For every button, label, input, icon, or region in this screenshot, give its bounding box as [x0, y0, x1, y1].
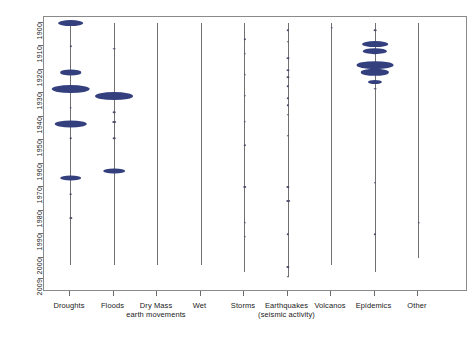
point-marker — [287, 41, 289, 43]
point-marker — [287, 234, 289, 236]
point-marker — [286, 201, 290, 203]
series-strip-line — [244, 23, 245, 272]
y-axis-tick-label: 1960 — [36, 164, 44, 180]
x-axis-tick-label: Dry Mass — [140, 301, 172, 310]
x-axis-tick-label: Volcanos — [314, 301, 345, 310]
x-axis-tick — [200, 291, 201, 296]
x-axis-tick-label: Other — [407, 301, 426, 310]
point-marker — [113, 48, 116, 50]
point-marker — [374, 234, 376, 236]
point-marker — [112, 121, 116, 123]
point-marker — [243, 144, 245, 146]
point-marker — [374, 182, 376, 184]
violin-marker — [361, 69, 389, 75]
point-marker — [69, 46, 71, 48]
point-marker — [287, 97, 289, 99]
point-marker — [287, 86, 289, 88]
plot-area — [43, 16, 467, 291]
point-marker — [69, 217, 72, 219]
x-axis-tick-label: Floods — [101, 301, 124, 310]
point-marker — [374, 88, 377, 90]
x-axis-tick — [69, 291, 70, 296]
x-axis-tick — [113, 291, 114, 296]
violin-marker — [60, 70, 82, 75]
point-marker — [243, 39, 245, 41]
point-marker — [113, 111, 116, 113]
point-marker — [287, 135, 289, 137]
series-strip-line — [70, 23, 71, 265]
point-marker — [330, 27, 332, 29]
y-axis-tick-label: 1910 — [36, 46, 44, 62]
x-axis-tick — [287, 291, 288, 296]
chart-figure: 1900191019201930194019501960197019801990… — [0, 0, 473, 344]
y-axis-tick-label: 1920 — [36, 70, 44, 86]
x-axis-tick — [330, 291, 331, 296]
point-marker — [69, 107, 72, 109]
point-marker — [243, 186, 247, 188]
y-axis-tick-label: 1930 — [36, 93, 44, 109]
point-marker — [417, 222, 419, 224]
x-axis-tick — [156, 291, 157, 296]
point-marker — [113, 137, 116, 139]
violin-marker — [51, 85, 90, 93]
series-strip-line — [201, 23, 202, 265]
point-marker — [243, 121, 245, 123]
violin-marker — [60, 175, 82, 180]
violin-marker — [95, 92, 133, 100]
violin-marker — [103, 168, 125, 173]
y-axis-tick-label: 1940 — [36, 117, 44, 133]
point-marker — [374, 29, 377, 31]
point-marker — [287, 69, 290, 71]
point-marker — [69, 194, 72, 196]
x-axis-tick — [417, 291, 418, 296]
y-axis-tick-label: 2000 — [36, 258, 44, 274]
point-marker — [243, 222, 245, 224]
y-axis-tick-label: 1970 — [36, 187, 44, 203]
series-strip-line — [114, 23, 115, 265]
y-axis-tick-label: 1900 — [36, 23, 44, 39]
point-marker — [287, 104, 289, 106]
y-axis-tick-label: 1950 — [36, 140, 44, 156]
x-axis-tick-label: Storms — [231, 301, 255, 310]
series-strip-line — [331, 23, 332, 265]
x-axis-tick — [374, 291, 375, 296]
point-marker — [287, 29, 289, 31]
point-marker — [69, 137, 72, 139]
point-marker — [243, 53, 245, 55]
point-marker — [286, 186, 289, 188]
series-strip-line — [288, 23, 289, 277]
x-axis-tick-label: Droughts — [53, 301, 84, 310]
violin-marker — [368, 80, 382, 84]
point-marker — [286, 266, 289, 268]
y-axis: 1900191019201930194019501960197019801990… — [0, 16, 43, 291]
series-strip-line — [157, 23, 158, 265]
x-axis-tick-label: Earthquakes — [265, 301, 308, 310]
point-marker — [287, 114, 289, 116]
x-axis: DroughtsFloodsDry Massearth movementsWet… — [43, 291, 467, 341]
x-axis-tick — [243, 291, 244, 296]
y-axis-tick-label: 1990 — [36, 234, 44, 250]
point-marker — [287, 57, 290, 59]
x-axis-tick-label: Wet — [193, 301, 207, 310]
violin-marker — [357, 61, 394, 69]
violin-marker — [58, 20, 84, 26]
violin-marker — [54, 121, 86, 128]
point-marker — [287, 276, 289, 278]
x-axis-tick-sublabel: (seismic activity) — [258, 310, 315, 319]
point-marker — [243, 236, 245, 238]
violin-marker — [362, 41, 388, 47]
point-marker — [243, 74, 245, 76]
y-axis-tick-label: 1980 — [36, 211, 44, 227]
point-marker — [287, 76, 290, 78]
x-axis-tick-sublabel: earth movements — [126, 310, 185, 319]
point-marker — [243, 95, 245, 97]
x-axis-tick-label: Epidemics — [356, 301, 392, 310]
violin-marker — [363, 48, 387, 54]
